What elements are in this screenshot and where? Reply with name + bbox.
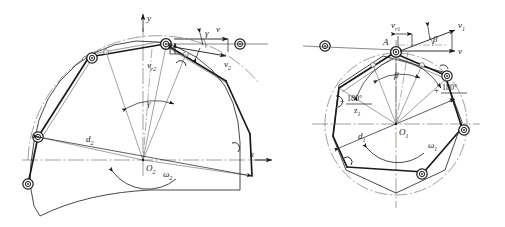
left-center-point <box>142 159 144 161</box>
left-omega-label: ω2 <box>163 169 172 181</box>
right-center-point <box>395 123 397 125</box>
left-sprocket-body <box>30 41 240 216</box>
right-v1-label: v1 <box>458 20 465 32</box>
right-omega-label: ω1 <box>428 140 437 152</box>
roller <box>442 71 452 81</box>
svg-text:180°: 180° <box>347 94 362 103</box>
left-d2-label: d2 <box>86 134 94 146</box>
right-v-label: v <box>458 46 462 56</box>
roller <box>459 125 469 135</box>
left-vr2-label: vr2 <box>147 60 156 72</box>
left-pitch-diameter <box>38 137 252 176</box>
right-center-label: O1 <box>399 127 409 139</box>
right-omega-arrow <box>367 148 424 163</box>
right-vr1-label: vr1 <box>391 20 400 32</box>
svg-text:z1: z1 <box>354 106 361 117</box>
right-beta-velocity-label: β <box>432 34 438 44</box>
svg-text:180°: 180° <box>442 83 457 92</box>
left-chain-links <box>28 44 252 184</box>
left-chain-plates <box>41 41 228 139</box>
left-velocity-triangle <box>170 33 228 58</box>
roller <box>23 179 33 189</box>
svg-text:+: + <box>434 85 439 95</box>
left-center-label: O2 <box>146 163 156 175</box>
right-d1-label: d1 <box>358 131 366 143</box>
left-v2-label: v2 <box>224 59 231 71</box>
right-point-A-label: A <box>382 37 389 47</box>
chain-drive-diagram: x y <box>0 0 505 227</box>
figure-canvas: x y <box>0 0 505 227</box>
left-sprocket-group: x y <box>22 13 272 216</box>
left-axis-y-label: y <box>146 13 151 23</box>
right-half-pitch-angle-left: − 180° z1 <box>339 94 372 117</box>
right-beta-arc <box>378 74 420 80</box>
left-rollers <box>23 39 245 190</box>
left-gamma-label: γ <box>147 98 151 108</box>
right-angle-bisector <box>396 52 408 124</box>
right-half-pitch-angle-right: + 180° z1 <box>434 83 467 106</box>
left-gamma-velocity-label: γ <box>205 28 209 38</box>
svg-text:−: − <box>339 96 344 106</box>
right-sprocket-group: A β − 180° z1 <box>303 20 480 208</box>
left-v-label: v <box>216 24 220 34</box>
right-velocity-triangle <box>396 27 455 51</box>
roller <box>417 169 427 179</box>
roller-off-sprocket <box>320 41 330 51</box>
right-beta-label: β <box>393 70 399 80</box>
roller <box>87 53 97 63</box>
